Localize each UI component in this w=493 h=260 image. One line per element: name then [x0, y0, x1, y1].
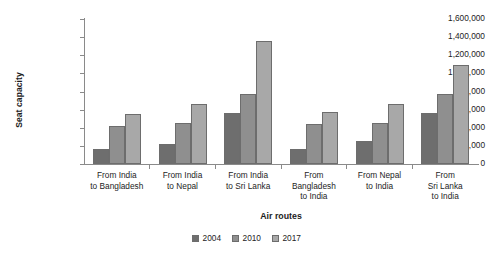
x-axis-category-label-line: to India [348, 181, 412, 192]
y-axis-tick-mark [80, 164, 84, 165]
legend-item[interactable]: 2010 [232, 234, 261, 243]
x-axis-category-labels: From Indiato BangladeshFrom Indiato Nepa… [84, 170, 478, 204]
x-axis-category-label-line: to Nepal [151, 181, 215, 192]
bar-2004[interactable] [290, 149, 306, 164]
x-axis-category-label-line: From India [85, 170, 149, 181]
x-axis-category-label-line: to India [282, 191, 346, 202]
x-axis-group-tick [281, 164, 282, 169]
x-axis-category-label-line: From [282, 170, 346, 181]
bar-group [412, 19, 478, 164]
x-axis-group-tick [149, 164, 150, 169]
bar-2004[interactable] [159, 144, 175, 164]
x-axis-category-label: From Indiato Bangladesh [84, 170, 150, 204]
bar-2010[interactable] [240, 94, 256, 164]
bar-group [281, 19, 347, 164]
x-axis-category-label: From Nepalto India [347, 170, 413, 204]
bar-group [150, 19, 216, 164]
x-axis-category-label: FromBangladeshto India [281, 170, 347, 204]
x-axis-category-label-line: to Bangladesh [85, 181, 149, 192]
bar-groups [84, 19, 478, 164]
bar-2010[interactable] [437, 94, 453, 164]
bar-2004[interactable] [356, 141, 372, 164]
bar-group [84, 19, 150, 164]
bar-2017[interactable] [453, 65, 469, 164]
legend-label: 2004 [203, 234, 221, 243]
x-axis-category-label-line: Sri Lanka [413, 181, 477, 192]
bar-2010[interactable] [306, 124, 322, 164]
x-axis-category-label-line: From [413, 170, 477, 181]
bar-2004[interactable] [224, 113, 240, 164]
legend-swatch-icon [232, 235, 239, 242]
bar-2004[interactable] [93, 149, 109, 164]
legend-swatch-icon [192, 235, 199, 242]
x-axis-category-label: From Indiato Sri Lanka [215, 170, 281, 204]
legend-label: 2017 [282, 234, 300, 243]
bar-2017[interactable] [125, 114, 141, 164]
bar-2017[interactable] [388, 104, 404, 164]
legend-item[interactable]: 2004 [192, 234, 221, 243]
x-axis-category-label-line: to Sri Lanka [216, 181, 280, 192]
bar-2017[interactable] [322, 112, 338, 164]
bar-2017[interactable] [191, 104, 207, 164]
y-axis-title-text: Seat capacity [14, 52, 24, 148]
bar-2010[interactable] [109, 126, 125, 164]
x-axis-title: Air routes [84, 211, 478, 221]
bar-2010[interactable] [372, 123, 388, 164]
x-axis-category-label: FromSri Lankato India [412, 170, 478, 204]
x-axis-group-tick [346, 164, 347, 169]
x-axis-category-label-line: From India [151, 170, 215, 181]
bar-chart: Seat capacity 0200,000400,000600,000800,… [0, 0, 493, 260]
bar-2017[interactable] [256, 41, 272, 164]
x-axis-category-label-line: Bangladesh [282, 181, 346, 192]
chart-legend: 200420102017 [0, 234, 493, 243]
bar-group [347, 19, 413, 164]
x-axis-category-label: From Indiato Nepal [150, 170, 216, 204]
bar-2004[interactable] [421, 113, 437, 164]
y-axis-title: Seat capacity [14, 0, 28, 52]
x-axis-group-tick [412, 164, 413, 169]
bar-2010[interactable] [175, 123, 191, 164]
x-axis-category-label-line: to India [413, 191, 477, 202]
legend-swatch-icon [272, 235, 279, 242]
bar-group [215, 19, 281, 164]
x-axis-group-tick [215, 164, 216, 169]
legend-item[interactable]: 2017 [272, 234, 301, 243]
legend-label: 2010 [243, 234, 261, 243]
x-axis-category-label-line: From Nepal [348, 170, 412, 181]
x-axis-category-label-line: From India [216, 170, 280, 181]
